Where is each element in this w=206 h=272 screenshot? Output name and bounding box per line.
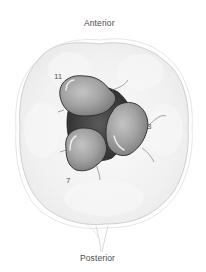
lobe-label-11: 11 [54,72,62,81]
lobe-label-3: 3 [147,122,151,131]
cross-section-illustration [0,0,206,272]
posterior-label: Posterior [80,253,115,263]
anterior-label: Anterior [84,18,115,28]
lobe-label-7: 7 [66,176,70,185]
